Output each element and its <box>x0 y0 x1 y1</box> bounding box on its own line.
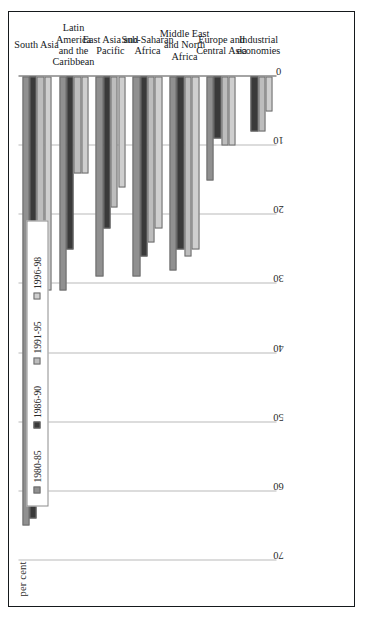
tick-label-50: 50 <box>273 411 284 422</box>
bar <box>110 76 117 207</box>
category-axis-labels: South AsiaLatin Americaand theCaribbeanE… <box>18 16 276 72</box>
bar <box>95 76 102 277</box>
legend-swatch-icon <box>33 486 40 493</box>
bar <box>228 76 235 145</box>
bar <box>73 76 80 173</box>
bar <box>132 76 139 277</box>
tick-label-30: 30 <box>273 272 284 283</box>
bar <box>258 76 265 131</box>
bar <box>81 76 88 173</box>
bar-group <box>202 76 239 560</box>
legend-item: 1980-85 <box>31 450 42 493</box>
bar-group <box>165 76 202 560</box>
legend-item: 1991-95 <box>31 321 42 364</box>
legend-item: 1996-98 <box>31 257 42 300</box>
bar-group <box>92 76 129 560</box>
bar <box>154 76 161 228</box>
bar <box>59 76 66 290</box>
category-label: Industrialeconomies <box>230 24 286 64</box>
tick-label-40: 40 <box>273 342 284 353</box>
tick-label-20: 20 <box>273 203 284 214</box>
tick-label-70: 70 <box>273 549 284 560</box>
bar <box>191 76 198 249</box>
x-axis-tick-labels: 706050403020100 <box>278 76 304 560</box>
category-label-line: Industrial <box>230 33 286 44</box>
bar <box>176 76 183 249</box>
axis-title-per-cent: per cent <box>16 561 27 596</box>
bar <box>250 76 257 131</box>
bar <box>103 76 110 228</box>
legend-swatch-icon <box>33 357 40 364</box>
legend-swatch-icon <box>33 422 40 429</box>
bar <box>213 76 220 138</box>
bar <box>206 76 213 180</box>
bar <box>184 76 191 256</box>
bar <box>221 76 228 145</box>
bar-group <box>55 76 92 560</box>
rotated-chart-canvas: per cent 706050403020100 South AsiaLatin… <box>12 12 353 602</box>
legend-label: 1996-98 <box>31 257 42 289</box>
legend-swatch-icon <box>33 293 40 300</box>
figure-border-frame: per cent 706050403020100 South AsiaLatin… <box>8 11 355 607</box>
bar <box>118 76 125 187</box>
bar <box>265 76 272 111</box>
bar <box>147 76 154 242</box>
bar <box>169 76 176 270</box>
bar <box>66 76 73 249</box>
bar-groups <box>18 76 276 560</box>
legend-label: 1986-90 <box>31 386 42 418</box>
scanned-figure-page: per cent 706050403020100 South AsiaLatin… <box>0 0 369 620</box>
legend-item: 1986-90 <box>31 386 42 429</box>
bar-group <box>129 76 166 560</box>
bar <box>140 76 147 256</box>
category-label-line: economies <box>230 44 286 55</box>
legend-label: 1991-95 <box>31 321 42 353</box>
tick-label-60: 60 <box>273 480 284 491</box>
bar-group <box>239 76 276 560</box>
tick-label-10: 10 <box>273 134 284 145</box>
legend-label: 1980-85 <box>31 450 42 482</box>
chart-legend: 1980-851986-901991-951996-98 <box>26 220 48 506</box>
